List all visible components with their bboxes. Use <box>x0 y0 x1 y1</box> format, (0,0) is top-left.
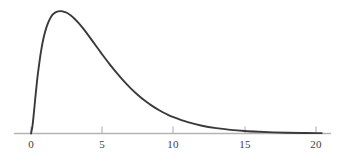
x-tick-label-10: 10 <box>158 138 188 150</box>
density-curve-chart: 0 5 10 15 20 Right-skewed unimodal proba… <box>0 0 343 165</box>
x-tick-label-5: 5 <box>87 138 117 150</box>
density-curve-line <box>31 11 322 133</box>
x-tick-label-20: 20 <box>301 138 331 150</box>
x-tick-label-15: 15 <box>230 138 260 150</box>
x-tick-label-0: 0 <box>16 138 46 150</box>
